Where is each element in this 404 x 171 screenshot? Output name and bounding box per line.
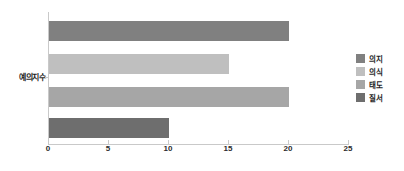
x-axis-tick-label: 0 [46,144,50,153]
x-axis-tick-mark [228,140,229,144]
x-axis-tick-mark [108,140,109,144]
x-axis-tick-label: 25 [344,144,353,153]
bar-chart: 예의지수 0510152025 의지의식태도질서 [0,0,404,171]
legend-item-label: 의식 [369,66,384,77]
legend-item-label: 태도 [369,79,384,90]
x-axis-tick-label: 20 [284,144,293,153]
bar-태도 [49,87,289,107]
legend-item-label: 의지 [369,53,384,64]
bar-의식 [49,54,229,74]
bar-series-group [49,12,349,144]
legend-swatch-icon [356,80,365,89]
x-axis-tick-mark [48,140,49,144]
x-axis-tick-label: 10 [164,144,173,153]
legend-item-의식[interactable]: 의식 [356,65,402,78]
legend-swatch-icon [356,54,365,63]
y-axis-category-label: 예의지수 [2,71,46,82]
bar-의지 [49,21,289,41]
legend-swatch-icon [356,93,365,102]
legend-item-태도[interactable]: 태도 [356,78,402,91]
legend-item-의지[interactable]: 의지 [356,52,402,65]
x-axis-tick-mark [288,140,289,144]
legend-swatch-icon [356,67,365,76]
legend-item-질서[interactable]: 질서 [356,91,402,104]
x-axis-tick-label: 5 [106,144,110,153]
bar-질서 [49,118,169,138]
x-axis-tick-label: 15 [224,144,233,153]
x-axis-tick-mark [168,140,169,144]
x-axis-tick-mark [348,140,349,144]
legend-item-label: 질서 [369,92,384,103]
x-axis-ticks: 0510152025 [48,144,358,160]
legend: 의지의식태도질서 [356,52,402,104]
plot-area [48,12,348,144]
